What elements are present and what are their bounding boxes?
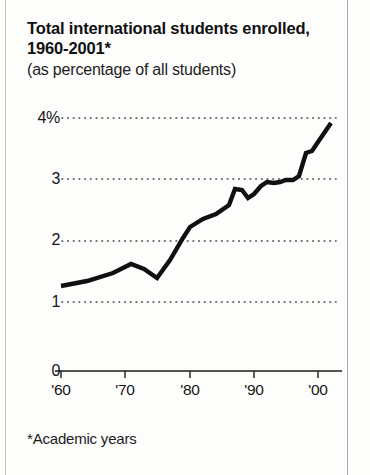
chart-figure: Total international students enrolled, 1… xyxy=(0,0,370,475)
x-axis-ticks xyxy=(61,371,318,378)
chart-footnote: *Academic years xyxy=(27,430,137,447)
chart-plot-area xyxy=(0,0,370,475)
data-series-line xyxy=(61,123,331,286)
